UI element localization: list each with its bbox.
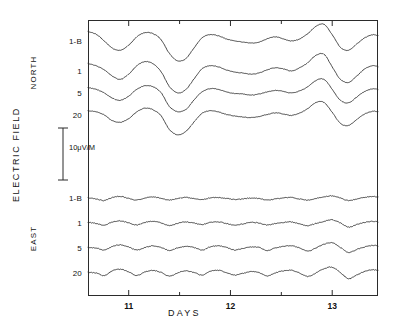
trace-label-north-5: 5: [56, 90, 82, 98]
trace-label-north-1b: 1-B: [56, 38, 82, 46]
trace-label-north-20: 20: [56, 112, 82, 120]
electric-field-figure: ELECTRIC FIELD NORTH EAST 1-B 1 5 20 1-B…: [0, 0, 394, 323]
x-axis-title: DAYS: [168, 308, 201, 318]
x-tick-label-12: 12: [220, 301, 240, 311]
x-tick-label-11: 11: [119, 301, 139, 311]
trace-label-east-1b: 1-B: [56, 195, 82, 203]
trace-label-east-20: 20: [56, 270, 82, 278]
group-label-east: EAST: [29, 220, 38, 258]
scale-bar: [58, 128, 68, 180]
trace-label-north-1: 1: [56, 68, 82, 76]
plot-frame: [88, 20, 378, 296]
scale-bar-label: 10μV/M: [69, 143, 95, 152]
group-label-north: NORTH: [29, 51, 38, 95]
trace-label-east-1: 1: [56, 220, 82, 228]
x-tick-label-13: 13: [322, 301, 342, 311]
trace-label-east-5: 5: [56, 245, 82, 253]
y-axis-title: ELECTRIC FIELD: [11, 112, 21, 202]
